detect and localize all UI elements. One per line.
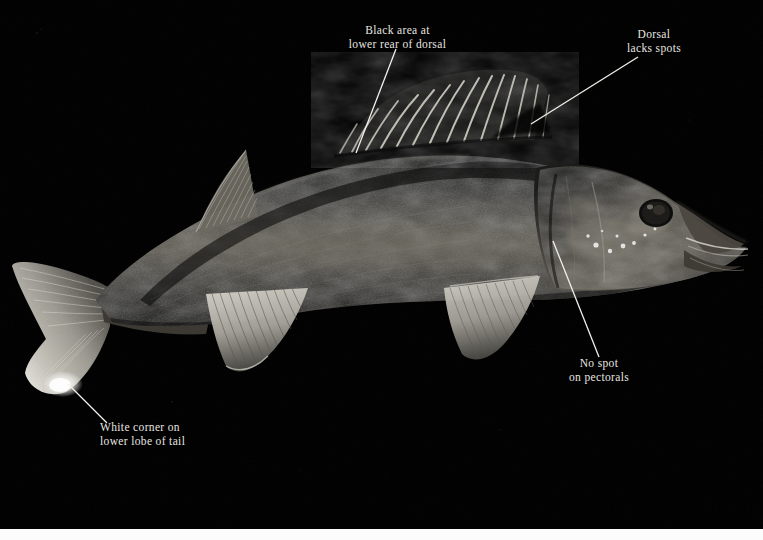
annotation-dorsal-black-area: Black area at lower rear of dorsal: [330, 24, 465, 51]
page-bottom-strip: [0, 529, 763, 540]
annotation-dorsal-lacks-spots: Dorsal lacks spots: [600, 28, 708, 55]
annotation-white-corner-lower-tail: White corner on lower lobe of tail: [100, 421, 250, 448]
walleye-illustration: [0, 0, 763, 529]
fish-identification-plate: Black area at lower rear of dorsal Dorsa…: [0, 0, 763, 540]
specimen-photograph: [0, 0, 763, 529]
annotation-no-spot-on-pectorals: No spot on pectorals: [543, 357, 655, 384]
